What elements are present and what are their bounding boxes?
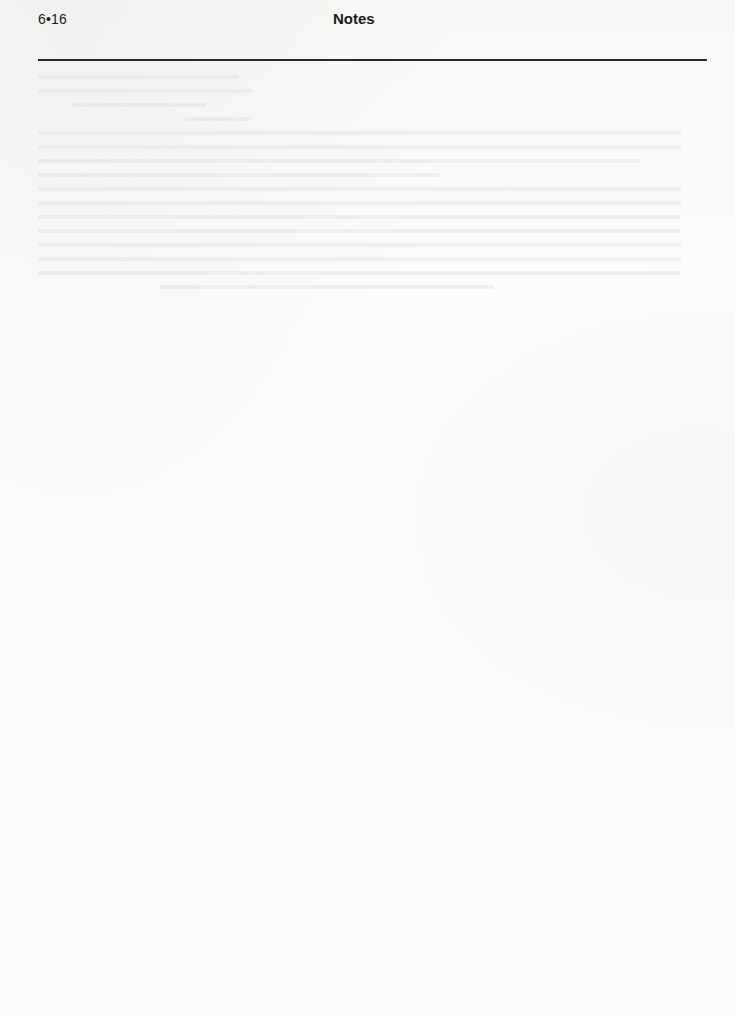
page-number: 6•16 <box>38 11 67 27</box>
header-divider <box>38 59 707 61</box>
section-title: Notes <box>333 10 375 27</box>
bleed-through-texture <box>38 75 708 375</box>
